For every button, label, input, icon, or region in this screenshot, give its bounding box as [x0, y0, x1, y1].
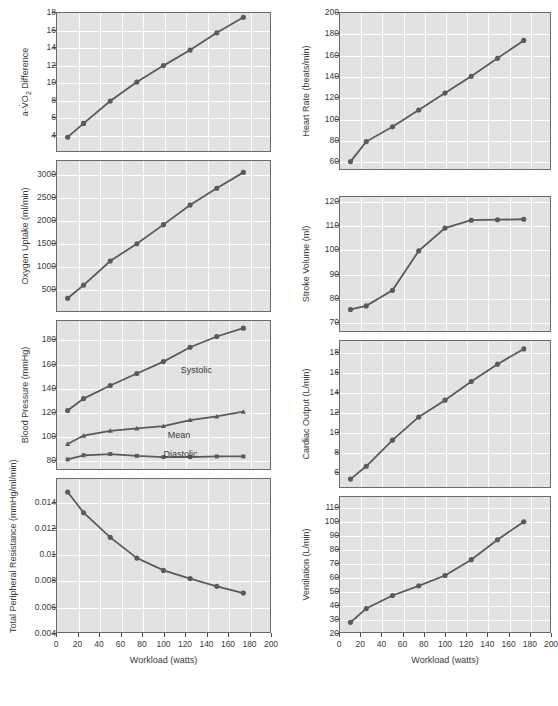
x-axis-tick-label: 20 — [73, 640, 82, 649]
x-axis-tick-label: 80 — [137, 640, 146, 649]
x-axis-tick-label: 0 — [54, 640, 59, 649]
x-axis-tick-label: 0 — [337, 640, 342, 649]
x-axis-tick-label: 140 — [480, 640, 494, 649]
physiological-response-figure: 4681012141618a-VO2 Difference50010001500… — [0, 0, 558, 706]
x-axis-tick-mark — [250, 633, 251, 637]
x-axis-tick-mark — [530, 633, 531, 637]
x-axis-tick-mark — [445, 633, 446, 637]
x-axis-ventilation: 020406080100120140160180200Workload (wat… — [279, 0, 558, 706]
x-axis-tick-mark — [509, 633, 510, 637]
chart-column-left: 4681012141618a-VO2 Difference50010001500… — [0, 0, 279, 706]
x-axis-tick-mark — [466, 633, 467, 637]
x-axis-tick-label: 60 — [398, 640, 407, 649]
x-axis-tick-label: 40 — [377, 640, 386, 649]
x-axis-tick-label: 40 — [94, 640, 103, 649]
x-axis-total-peripheral-resistance: 020406080100120140160180200Workload (wat… — [0, 0, 279, 706]
x-axis-tick-label: 60 — [116, 640, 125, 649]
x-axis-tick-mark — [99, 633, 100, 637]
x-axis-tick-mark — [142, 633, 143, 637]
x-axis-tick-label: 120 — [178, 640, 192, 649]
x-axis-label: Workload (watts) — [130, 655, 197, 665]
x-axis-tick-label: 180 — [523, 640, 537, 649]
x-axis-tick-mark — [228, 633, 229, 637]
x-axis-tick-label: 180 — [242, 640, 256, 649]
x-axis-tick-label: 20 — [355, 640, 364, 649]
x-axis-tick-label: 200 — [544, 640, 558, 649]
x-axis-tick-label: 120 — [459, 640, 473, 649]
x-axis-tick-mark — [360, 633, 361, 637]
x-axis-tick-mark — [403, 633, 404, 637]
x-axis-tick-mark — [271, 633, 272, 637]
x-axis-tick-mark — [339, 633, 340, 637]
x-axis-tick-mark — [551, 633, 552, 637]
x-axis-tick-mark — [164, 633, 165, 637]
x-axis-tick-label: 160 — [502, 640, 516, 649]
x-axis-tick-mark — [121, 633, 122, 637]
x-axis-tick-label: 200 — [264, 640, 278, 649]
x-axis-tick-mark — [185, 633, 186, 637]
x-axis-tick-mark — [424, 633, 425, 637]
x-axis-tick-mark — [207, 633, 208, 637]
x-axis-tick-label: 80 — [419, 640, 428, 649]
x-axis-tick-label: 100 — [156, 640, 170, 649]
x-axis-tick-label: 140 — [199, 640, 213, 649]
x-axis-tick-mark — [381, 633, 382, 637]
x-axis-tick-mark — [487, 633, 488, 637]
x-axis-tick-mark — [78, 633, 79, 637]
x-axis-tick-label: 160 — [221, 640, 235, 649]
x-axis-tick-label: 100 — [438, 640, 452, 649]
x-axis-tick-mark — [56, 633, 57, 637]
x-axis-label: Workload (watts) — [411, 655, 478, 665]
chart-column-right: 6080100120140160180200Heart Rate (beats/… — [279, 0, 558, 706]
